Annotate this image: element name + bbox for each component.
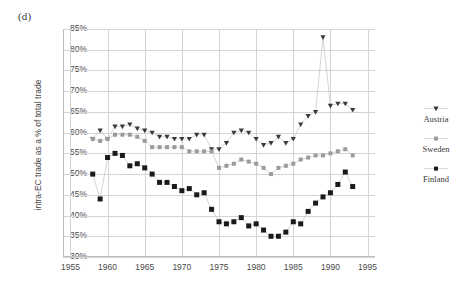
x-tick-label: 1985 [273,262,313,272]
legend-entry-finland[interactable]: Finland [406,164,466,184]
data-point-marker [106,137,110,141]
data-point-marker [165,180,170,185]
data-point-marker [239,158,243,162]
data-point-marker [335,182,340,187]
data-point-marker [179,188,184,193]
x-tick-label: 1980 [236,262,276,272]
figure-panel: (d) intra-EC trade as a % of total trade… [0,0,468,287]
data-point-marker [283,230,288,235]
legend-label: Austria [406,114,466,124]
data-point-marker [254,221,259,226]
data-point-marker [306,209,311,214]
data-point-marker [276,234,281,239]
legend-entry-sweden[interactable]: Sweden [406,134,466,154]
data-point-marker [135,135,139,139]
data-point-marker [350,108,355,113]
data-point-marker [172,145,176,149]
x-tick-label: 1965 [125,262,165,272]
square-filled-marker [406,164,466,173]
plot-area [63,29,375,257]
data-point-marker [336,149,340,153]
data-point-marker [224,221,229,226]
legend-label: Finland [406,174,466,184]
series-line [93,37,353,149]
data-point-marker [254,162,258,166]
data-point-marker [165,145,169,149]
data-point-marker [291,162,295,166]
data-point-marker [187,149,191,153]
data-point-marker [231,219,236,224]
x-tick-label: 1960 [88,262,128,272]
data-point-marker [157,180,162,185]
data-point-marker [351,153,355,157]
x-tick-label: 1995 [348,262,388,272]
data-point-marker [269,234,274,239]
data-point-marker [150,172,155,177]
data-point-marker [299,158,303,162]
data-point-marker [269,172,273,176]
data-point-marker [320,35,325,40]
data-point-marker [232,162,236,166]
data-point-marker [217,166,221,170]
data-point-marker [217,219,222,224]
data-point-marker [291,137,296,142]
x-tick-label: 1955 [50,262,90,272]
data-point-marker [284,164,288,168]
data-point-marker [209,207,214,212]
data-point-marker [127,163,132,168]
data-point-marker [239,215,244,220]
data-point-marker [120,153,125,158]
data-point-marker [143,139,147,143]
data-point-marker [328,190,333,195]
data-point-marker [291,219,296,224]
data-point-marker [202,149,206,153]
data-point-marker [276,166,280,170]
data-point-marker [313,201,318,206]
x-tick-label: 1990 [310,262,350,272]
legend: AustriaSwedenFinland [406,104,466,194]
data-point-marker [321,194,326,199]
data-point-marker [172,184,177,189]
legend-entry-austria[interactable]: Austria [406,104,466,124]
legend-label: Sweden [406,144,466,154]
data-point-marker [210,149,214,153]
data-point-marker [98,196,103,201]
y-axis-title: intra-EC trade as a % of total trade [33,45,43,245]
data-point-marker [247,160,251,164]
data-point-marker [328,151,332,155]
data-point-marker [91,137,95,141]
data-point-marker [261,228,266,233]
data-point-marker [142,165,147,170]
data-point-marker [90,172,95,177]
data-point-marker [120,133,124,137]
data-point-marker [283,141,288,146]
data-point-marker [98,139,102,143]
data-point-marker [150,145,154,149]
data-point-marker [224,164,228,168]
data-point-marker [187,186,192,191]
data-point-marker [158,145,162,149]
data-point-marker [194,192,199,197]
data-point-marker [105,155,110,160]
gridline-horizontal [63,257,375,258]
data-point-marker [135,161,140,166]
data-point-marker [150,131,155,136]
data-point-marker [314,153,318,157]
series-sweden [91,133,355,176]
data-point-marker [113,133,117,137]
x-tick-label: 1975 [199,262,239,272]
series-plot [63,29,375,257]
data-point-marker [313,110,318,115]
data-point-marker [128,133,132,137]
data-point-marker [328,104,333,109]
data-point-marker [306,156,310,160]
data-point-marker [343,147,347,151]
data-point-marker [113,151,118,156]
series-finland [90,151,355,239]
data-point-marker [350,184,355,189]
data-point-marker [321,153,325,157]
data-point-marker [298,221,303,226]
data-point-marker [246,223,251,228]
data-point-marker [262,166,266,170]
panel-label: (d) [18,10,31,22]
